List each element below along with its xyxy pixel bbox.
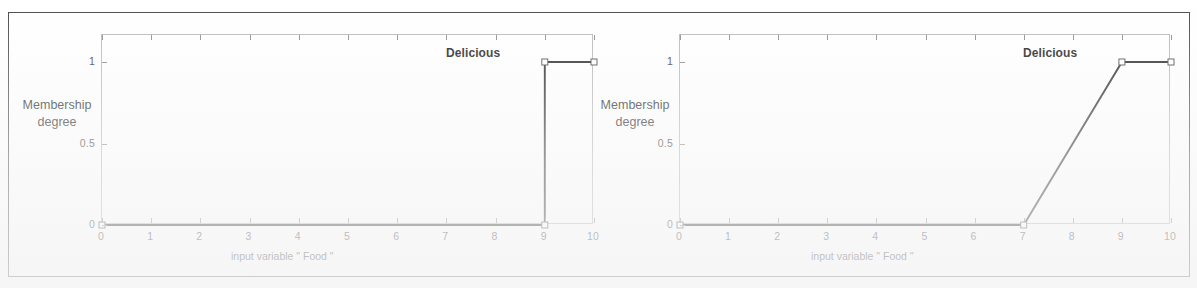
y-tick-0: [102, 225, 107, 226]
membership-polyline-left: [102, 62, 594, 225]
mf-label-delicious-right: Delicious: [1023, 46, 1077, 60]
x-tick-top-5: [348, 35, 349, 40]
x-tick-top-0: [680, 35, 681, 40]
x-tick-label-3: 3: [823, 230, 829, 242]
x-tick-top-9: [545, 35, 546, 40]
control-point-marker[interactable]: [542, 59, 548, 65]
chart-left-crisp-set: Membership degree Delicious 012345678910…: [9, 13, 609, 278]
x-tick-label-4: 4: [872, 230, 878, 242]
x-tick-top-3: [827, 35, 828, 40]
x-tick-7: [446, 218, 447, 223]
x-tick-top-2: [200, 35, 201, 40]
x-tick-top-10: [1171, 35, 1172, 40]
x-tick-top-2: [778, 35, 779, 40]
x-tick-label-2: 2: [774, 230, 780, 242]
y-axis-label-right: Membership degree: [593, 97, 677, 131]
x-tick-label-9: 9: [541, 230, 547, 242]
x-tick-top-9: [1122, 35, 1123, 40]
y-tick-label-0.5: 0.5: [645, 137, 673, 149]
x-tick-top-5: [926, 35, 927, 40]
x-tick-label-3: 3: [246, 230, 252, 242]
x-tick-label-2: 2: [196, 230, 202, 242]
y-tick-0: [680, 225, 685, 226]
x-tick-label-5: 5: [921, 230, 927, 242]
x-tick-label-4: 4: [295, 230, 301, 242]
x-tick-1: [151, 218, 152, 223]
x-tick-top-8: [1073, 35, 1074, 40]
x-tick-7: [1024, 218, 1025, 223]
x-tick-top-1: [729, 35, 730, 40]
x-tick-8: [1073, 218, 1074, 223]
y-tick-label-0: 0: [645, 218, 673, 230]
x-tick-label-6: 6: [971, 230, 977, 242]
x-tick-0: [102, 218, 103, 223]
x-tick-top-4: [299, 35, 300, 40]
x-tick-label-7: 7: [1020, 230, 1026, 242]
y-tick-1: [680, 62, 685, 63]
x-axis-label-right: input variable " Food ": [811, 250, 914, 262]
y-axis-label-left: Membership degree: [15, 97, 99, 131]
x-tick-label-1: 1: [725, 230, 731, 242]
x-tick-top-4: [876, 35, 877, 40]
x-tick-1: [729, 218, 730, 223]
membership-curve-left: [102, 35, 594, 225]
control-point-marker[interactable]: [1119, 59, 1125, 65]
x-tick-top-0: [102, 35, 103, 40]
x-tick-8: [496, 218, 497, 223]
x-tick-top-1: [151, 35, 152, 40]
control-point-marker[interactable]: [1168, 59, 1174, 65]
chart-right-fuzzy-set: Membership degree Delicious 012345678910…: [595, 13, 1191, 278]
membership-polyline-right: [680, 62, 1171, 225]
x-tick-9: [1122, 218, 1123, 223]
x-tick-label-0: 0: [676, 230, 682, 242]
x-tick-label-8: 8: [1069, 230, 1075, 242]
x-tick-label-6: 6: [393, 230, 399, 242]
x-tick-label-5: 5: [344, 230, 350, 242]
y-axis-label-right-line1: Membership: [593, 97, 677, 114]
x-tick-3: [250, 218, 251, 223]
y-axis-label-right-line2: degree: [593, 114, 677, 131]
x-tick-6: [397, 218, 398, 223]
x-tick-2: [200, 218, 201, 223]
plot-area-right: [679, 34, 1170, 224]
x-tick-4: [876, 218, 877, 223]
x-tick-top-6: [397, 35, 398, 40]
plot-area-left: [101, 34, 593, 224]
x-tick-5: [348, 218, 349, 223]
x-tick-4: [299, 218, 300, 223]
x-axis-label-left: input variable " Food ": [231, 250, 334, 262]
x-tick-3: [827, 218, 828, 223]
x-tick-top-7: [1024, 35, 1025, 40]
figure-outer-frame: Membership degree Delicious 012345678910…: [8, 12, 1190, 277]
y-axis-label-left-line2: degree: [15, 114, 99, 131]
x-tick-0: [680, 218, 681, 223]
x-tick-label-0: 0: [98, 230, 104, 242]
y-tick-label-1: 1: [67, 55, 95, 67]
x-tick-top-6: [975, 35, 976, 40]
x-tick-top-7: [446, 35, 447, 40]
y-tick-label-0: 0: [67, 218, 95, 230]
x-tick-2: [778, 218, 779, 223]
y-tick-label-1: 1: [645, 55, 673, 67]
y-tick-1: [102, 62, 107, 63]
x-tick-9: [545, 218, 546, 223]
x-tick-label-8: 8: [492, 230, 498, 242]
x-tick-top-8: [496, 35, 497, 40]
x-tick-top-3: [250, 35, 251, 40]
y-tick-label-0.5: 0.5: [67, 137, 95, 149]
x-tick-label-10: 10: [1164, 230, 1176, 242]
x-tick-label-9: 9: [1118, 230, 1124, 242]
x-tick-label-1: 1: [147, 230, 153, 242]
figure-page: Membership degree Delicious 012345678910…: [0, 0, 1197, 288]
y-axis-label-left-line1: Membership: [15, 97, 99, 114]
y-tick-0.5: [102, 144, 107, 145]
y-tick-0.5: [680, 144, 685, 145]
x-tick-6: [975, 218, 976, 223]
mf-label-delicious-left: Delicious: [446, 46, 500, 60]
x-tick-10: [1171, 218, 1172, 223]
membership-curve-right: [680, 35, 1171, 225]
x-tick-5: [926, 218, 927, 223]
x-tick-label-7: 7: [442, 230, 448, 242]
